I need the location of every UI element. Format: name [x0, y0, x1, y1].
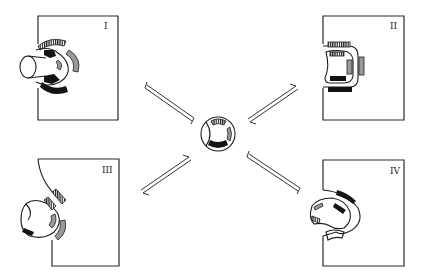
arrow-center-to-I: [145, 82, 194, 124]
arrow-center-to-III: [141, 155, 191, 195]
complex-II: [323, 42, 364, 92]
center-node: [201, 117, 235, 151]
complex-IV: [310, 190, 360, 240]
arrow-center-to-II: [248, 84, 298, 124]
panel-IV-label: IV: [390, 166, 401, 176]
panel-III: III: [21, 159, 119, 266]
panel-IV: IV: [310, 160, 404, 266]
diagram-canvas: I II: [0, 0, 429, 280]
panel-II-label: II: [390, 21, 398, 31]
equilibrium-arrows: [141, 82, 300, 195]
panel-III-frame: [38, 159, 119, 266]
complex-III: [21, 189, 66, 240]
complex-I: [20, 39, 79, 94]
panel-I-label: I: [104, 21, 108, 31]
panel-II: II: [323, 16, 404, 120]
panel-III-label: III: [102, 165, 113, 175]
panel-I: I: [20, 16, 118, 120]
arrow-center-to-IV: [247, 151, 300, 194]
